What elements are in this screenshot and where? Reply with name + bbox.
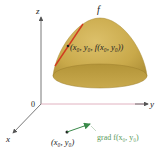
domain-point-label: (x₀, y₀) (51, 137, 75, 147)
gradient-leader (91, 126, 96, 131)
y-axis-label: y (149, 99, 154, 109)
surface-point-label: (x₀, y₀, f(x₀, y₀)) (70, 42, 124, 52)
x-axis (13, 104, 41, 133)
x-axis-label: x (5, 134, 10, 144)
surface-label: f (97, 4, 101, 15)
surface-point (67, 45, 70, 48)
paraboloid-base (53, 64, 147, 88)
z-axis-label: z (35, 6, 40, 16)
gradient-diagram: f z y x 0 (x₀, y₀, f(x₀, y₀)) (x₀, y₀) g… (0, 0, 163, 156)
gradient-arrow (67, 124, 90, 132)
origin-label: 0 (31, 100, 35, 109)
gradient-label: grad f(x₀, y₀) (97, 133, 139, 142)
